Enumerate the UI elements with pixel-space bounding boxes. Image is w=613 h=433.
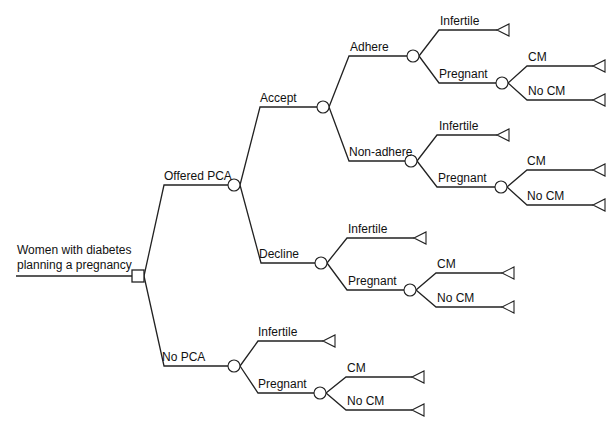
nopca-cm-line [326, 377, 412, 393]
accept-line [240, 107, 317, 185]
root-label: Women with diabetes planning a pregnancy [17, 243, 132, 273]
branch-label-adhere-no-cm: No CM [528, 84, 565, 98]
chance-node-adhere-pregnant-icon [496, 77, 508, 89]
nonadhere-cm-line [507, 170, 593, 187]
nopca-infertile-line [240, 341, 323, 366]
terminal-node-icon [497, 24, 509, 36]
branch-label-nopca-no-cm: No CM [347, 394, 384, 408]
terminal-node-icon [502, 301, 514, 313]
adhere-line [329, 56, 407, 107]
branch-label-offered-pca: Offered PCA [164, 169, 232, 183]
branch-label-accept: Accept [260, 91, 297, 105]
terminal-node-icon [502, 267, 514, 279]
branch-label-decline-infertile: Infertile [348, 222, 387, 236]
chance-node-nopca-pregnant-icon [314, 387, 326, 399]
chance-node-decline-pregnant-icon [404, 284, 416, 296]
branch-label-nonadhere-infertile: Infertile [439, 119, 478, 133]
chance-node-decline-icon [315, 257, 327, 269]
branch-label-nopca-cm: CM [347, 361, 366, 375]
branch-label-decline-no-cm: No CM [437, 291, 474, 305]
chance-node-no-pca-icon [228, 360, 240, 372]
branch-label-decline: Decline [259, 247, 299, 261]
tree-lines [0, 0, 613, 433]
branch-label-adhere-cm: CM [528, 50, 547, 64]
root-label-line2: planning a pregnancy [17, 258, 132, 273]
chance-node-accept-icon [317, 101, 329, 113]
terminal-node-icon [593, 94, 605, 106]
chance-node-nonadhere-pregnant-icon [495, 181, 507, 193]
decision-node-icon [132, 270, 144, 282]
branch-label-nopca-infertile: Infertile [258, 325, 297, 339]
terminal-node-icon [593, 164, 605, 176]
decline-infertile-line [327, 238, 414, 263]
branch-label-decline-cm: CM [437, 257, 456, 271]
branch-label-adhere-pregnant: Pregnant [439, 67, 488, 81]
branch-label-non-adhere: Non-adhere [349, 145, 412, 159]
terminal-node-icon [412, 404, 424, 416]
adhere-cm-line [508, 66, 593, 83]
branch-label-decline-pregnant: Pregnant [348, 274, 397, 288]
terminal-node-icon [323, 335, 335, 347]
terminal-node-icon [497, 129, 509, 141]
adhere-infertile-line [419, 30, 497, 56]
branch-label-nopca-pregnant: Pregnant [258, 377, 307, 391]
root-label-line1: Women with diabetes [17, 243, 132, 258]
chance-node-adhere-icon [407, 50, 419, 62]
decline-cm-line [416, 273, 502, 290]
branch-label-nonadhere-pregnant: Pregnant [438, 171, 487, 185]
terminal-node-icon [412, 371, 424, 383]
branch-label-adhere-infertile: Infertile [440, 14, 479, 28]
decision-tree-diagram: Women with diabetes planning a pregnancy… [0, 0, 613, 433]
terminal-node-icon [593, 60, 605, 72]
offered-pca-line [144, 185, 228, 276]
terminal-node-icon [593, 199, 605, 211]
terminal-node-icon [414, 232, 426, 244]
nonadhere-infertile-line [417, 135, 497, 161]
branch-label-adhere: Adhere [350, 40, 389, 54]
branch-label-nonadhere-cm: CM [527, 154, 546, 168]
branch-label-nonadhere-no-cm: No CM [527, 189, 564, 203]
branch-label-no-pca: No PCA [162, 350, 205, 364]
